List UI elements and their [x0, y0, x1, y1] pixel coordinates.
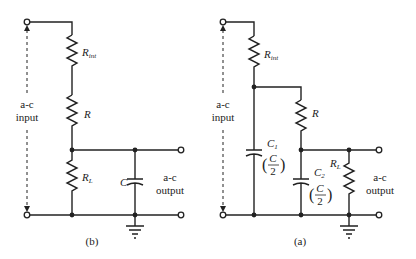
- circuit-diagrams: Rint R RL C a-c output a-c input (b): [0, 0, 416, 259]
- capacitor-c2: [293, 150, 309, 215]
- label-r-load: RL: [329, 157, 341, 171]
- capacitor-c: [127, 150, 143, 215]
- svg-text:C: C: [316, 182, 324, 194]
- node: [252, 213, 257, 218]
- output-terminal-top: [376, 147, 382, 153]
- capacitor-c1: [246, 87, 262, 215]
- input-terminal-bottom: [220, 212, 226, 218]
- node: [299, 213, 304, 218]
- resistor-r: [67, 95, 77, 150]
- output-terminal-bottom: [376, 212, 382, 218]
- resistor-r: [296, 100, 306, 150]
- ground-icon: [340, 215, 358, 238]
- input-terminal-bottom: [24, 212, 30, 218]
- svg-text:C: C: [269, 152, 277, 164]
- paren: (: [262, 156, 267, 174]
- label-r: R: [311, 107, 319, 119]
- label-r-load: RL: [81, 171, 93, 185]
- label-r-int: Rint: [263, 48, 279, 62]
- output-terminal-top: [178, 147, 184, 153]
- input-terminal-top: [220, 19, 226, 25]
- node: [70, 213, 75, 218]
- label-r: R: [83, 108, 91, 120]
- wire-top: [226, 22, 254, 36]
- output-label: output: [156, 184, 184, 196]
- input-terminal-top: [24, 19, 30, 25]
- output-label: a-c: [373, 171, 387, 183]
- label-c: C: [120, 176, 128, 188]
- wire-top: [30, 22, 72, 35]
- svg-text:2: 2: [317, 195, 323, 207]
- label-r-int: Rint: [81, 46, 97, 60]
- output-label: output: [366, 184, 394, 196]
- input-label: a-c: [20, 98, 34, 110]
- paren: ): [327, 186, 332, 204]
- wire: [254, 87, 301, 100]
- paren: (: [309, 186, 314, 204]
- c1-value: ( C 2 ): [262, 152, 285, 177]
- input-label: a-c: [216, 98, 230, 110]
- label-c2: C2: [314, 166, 325, 180]
- resistor-r-int: [67, 35, 77, 95]
- resistor-r-int: [249, 36, 259, 87]
- input-label: input: [16, 111, 39, 123]
- ground-icon: [126, 215, 144, 238]
- caption-a: (a): [294, 235, 307, 248]
- caption-b: (b): [86, 235, 99, 248]
- paren: ): [280, 156, 285, 174]
- label-c1: C1: [267, 137, 278, 151]
- circuit-b: Rint R RL C a-c output a-c input (b): [16, 19, 184, 248]
- resistor-r-load: [344, 150, 354, 215]
- output-terminal-bottom: [178, 212, 184, 218]
- svg-text:2: 2: [270, 165, 276, 177]
- input-label: input: [212, 111, 235, 123]
- circuit-a: Rint R C1 ( C 2 ) C2 ( C 2 ): [212, 19, 394, 248]
- c2-value: ( C 2 ): [309, 182, 332, 207]
- resistor-r-load: [67, 150, 77, 215]
- output-label: a-c: [163, 171, 177, 183]
